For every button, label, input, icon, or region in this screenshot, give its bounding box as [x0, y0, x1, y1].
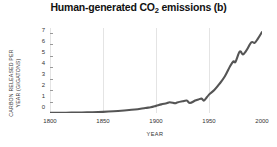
chart-title-prefix: Human-generated CO [50, 1, 154, 13]
chart-title-suffix: emissions (b) [159, 1, 227, 13]
y-tick-label: 0 [29, 104, 45, 110]
y-tick-label: 3 [29, 71, 45, 77]
y-tick-label: 6 [29, 38, 45, 44]
x-tick-label: 1900 [141, 118, 171, 124]
y-axis-label-line-2: YEAR (GIGATONS) [15, 37, 22, 129]
y-tick-label: 7 [29, 27, 45, 33]
chart-title: Human-generated CO2 emissions (b) [0, 1, 277, 15]
y-tick-label: 1 [29, 93, 45, 99]
x-tick-label: 2000 [247, 118, 277, 124]
y-tick-label: 4 [29, 60, 45, 66]
y-tick-label: 2 [29, 82, 45, 88]
chart-container: Human-generated CO2 emissions (b) CARBON… [0, 0, 277, 147]
x-tick-label: 1800 [35, 118, 65, 124]
gridlines [51, 28, 263, 113]
plot-area [50, 28, 262, 113]
x-tick-label: 1850 [88, 118, 118, 124]
y-tick-label: 5 [29, 49, 45, 55]
x-axis-label: YEAR [45, 131, 265, 137]
y-axis-label-line-1: CARBON RELEASED PER [8, 37, 15, 129]
y-axis-label-wrapper: CARBON RELEASED PER YEAR (GIGATONS) [8, 26, 30, 118]
chart-plot-svg [50, 28, 262, 113]
y-axis-label: CARBON RELEASED PER YEAR (GIGATONS) [8, 37, 30, 129]
chart-title-subscript: 2 [155, 6, 159, 15]
x-tick-label: 1950 [194, 118, 224, 124]
